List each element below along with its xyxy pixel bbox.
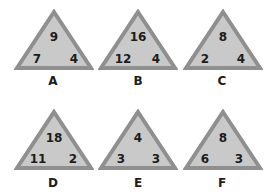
label-b: B bbox=[133, 75, 142, 87]
right-number: 3 bbox=[152, 153, 160, 165]
left-number: 12 bbox=[115, 53, 132, 65]
top-number: 9 bbox=[50, 31, 58, 43]
left-number: 11 bbox=[30, 153, 47, 165]
triangle-c: 8 2 4 bbox=[183, 9, 263, 71]
label-f: F bbox=[218, 177, 226, 189]
label-e: E bbox=[134, 177, 142, 189]
triangle-f: 8 6 3 bbox=[183, 109, 263, 171]
right-number: 3 bbox=[235, 153, 243, 165]
triangle-d: 18 11 2 bbox=[14, 109, 94, 171]
right-number: 4 bbox=[152, 53, 160, 65]
top-number: 18 bbox=[46, 132, 63, 144]
triangle-e: 4 3 3 bbox=[98, 109, 178, 171]
left-number: 2 bbox=[201, 53, 209, 65]
top-number: 8 bbox=[219, 31, 227, 43]
top-number: 8 bbox=[219, 132, 227, 144]
label-d: D bbox=[48, 177, 58, 189]
triangle-b: 16 12 4 bbox=[98, 9, 178, 71]
top-number: 4 bbox=[134, 132, 142, 144]
triangle-a: 9 7 4 bbox=[14, 9, 94, 71]
right-number: 4 bbox=[70, 53, 78, 65]
right-number: 4 bbox=[237, 53, 245, 65]
right-number: 2 bbox=[69, 153, 77, 165]
left-number: 3 bbox=[117, 153, 125, 165]
left-number: 7 bbox=[33, 53, 41, 65]
left-number: 6 bbox=[201, 153, 209, 165]
top-number: 16 bbox=[130, 31, 147, 43]
label-a: A bbox=[48, 75, 57, 87]
label-c: C bbox=[218, 75, 227, 87]
